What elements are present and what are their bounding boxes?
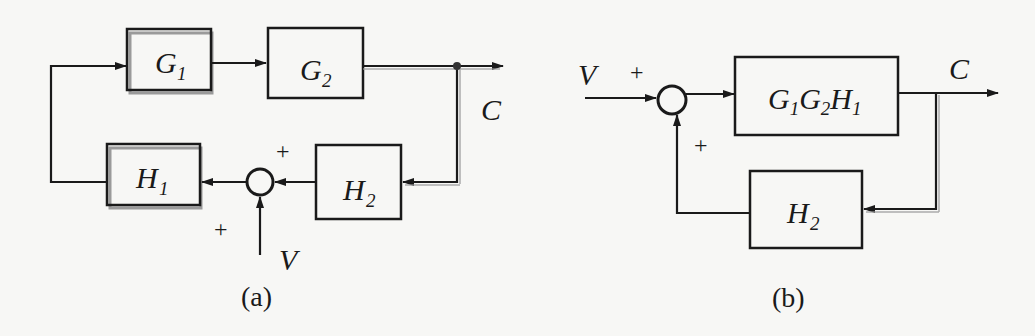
block-h2-a-sub: 2 bbox=[366, 190, 376, 211]
signal-c-a: C bbox=[481, 93, 502, 126]
block-g2-sub: 2 bbox=[322, 70, 332, 91]
block-h1-label: H bbox=[135, 161, 160, 194]
sign-plus-h2-b: + bbox=[694, 132, 708, 158]
summing-junction-b bbox=[658, 86, 686, 114]
block-g1-sub: 1 bbox=[177, 63, 187, 84]
sign-plus-v-b: + bbox=[630, 59, 644, 85]
block-g1g2h1-part1: G bbox=[768, 82, 790, 115]
block-h2-b-sub: 2 bbox=[810, 213, 820, 234]
block-g1: G 1 bbox=[127, 29, 212, 93]
signal-v-b: V bbox=[578, 58, 600, 91]
block-h2-b-label: H bbox=[786, 196, 811, 229]
svg-text:G1G2H1: G1G2H1 bbox=[768, 82, 862, 119]
summing-junction-a bbox=[247, 169, 273, 195]
signal-c-b: C bbox=[949, 52, 970, 85]
diagram-a: G 1 G 2 H 1 H 2 bbox=[51, 28, 503, 312]
sign-plus-h2-a: + bbox=[276, 138, 290, 164]
block-g2: G 2 bbox=[268, 28, 363, 98]
block-h1: H 1 bbox=[107, 144, 201, 208]
block-h1-sub: 1 bbox=[159, 178, 169, 199]
block-g2-label: G bbox=[300, 53, 322, 86]
block-h2-a: H 2 bbox=[316, 145, 401, 219]
signal-v-a: V bbox=[279, 243, 301, 276]
diagram-b: G1G2H1 H 2 V + + C (b) bbox=[578, 52, 998, 313]
caption-a: (a) bbox=[241, 281, 272, 312]
sign-plus-v-a: + bbox=[214, 216, 228, 242]
block-h2-b: H 2 bbox=[750, 171, 862, 248]
caption-b: (b) bbox=[772, 282, 805, 313]
block-g1g2h1: G1G2H1 bbox=[735, 57, 898, 135]
block-diagrams: G 1 G 2 H 1 H 2 bbox=[0, 0, 1035, 336]
block-h2-a-label: H bbox=[342, 173, 367, 206]
block-g1-label: G bbox=[155, 46, 177, 79]
branch-point-a bbox=[453, 62, 461, 70]
